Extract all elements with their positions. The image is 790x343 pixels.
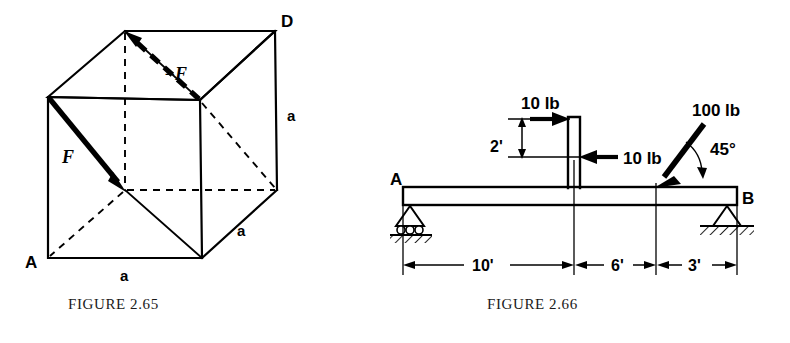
post-height-dimension: [508, 117, 580, 159]
support-b-pin: [700, 206, 754, 235]
figure-2-65-panel: A D F −F a a a: [0, 0, 400, 343]
cube-vertex-label-a: A: [25, 253, 37, 272]
load-arrow-100lb: [654, 124, 707, 188]
cube-edge-label-depth: a: [237, 222, 246, 239]
load-label-top-10lb: 10 lb: [521, 94, 560, 113]
load-label-mid-10lb: 10 lb: [623, 149, 662, 168]
figure-2-66-panel: 10 lb 10 lb 100 lb 45° 2' A B 10' 6' 3': [390, 0, 790, 343]
load-label-100lb: 100 lb: [692, 101, 740, 120]
dimension-extension-lines: [403, 160, 737, 275]
beam-diagram: 10 lb 10 lb 100 lb 45° 2' A B 10' 6' 3': [390, 0, 790, 290]
cube-edge-label-bottom: a: [120, 267, 129, 284]
dimension-row: [403, 261, 737, 269]
beam-body: [403, 187, 737, 205]
dimension-label-10ft: 10': [472, 257, 494, 274]
cube-vertex-label-d: D: [281, 12, 293, 31]
beam-support-label-b: B: [742, 189, 754, 208]
figure-page: A D F −F a a a: [0, 0, 790, 343]
load-arrow-mid-10lb: [579, 150, 618, 164]
beam-support-label-a: A: [390, 170, 402, 189]
dimension-label-3ft: 3': [688, 257, 701, 274]
cube-diagram: A D F −F a a a: [0, 0, 400, 290]
cube-force-label-f: F: [61, 147, 74, 167]
figure-caption-right: FIGURE 2.66: [487, 296, 578, 313]
dimension-label-6ft: 6': [611, 257, 624, 274]
post-height-label: 2': [490, 138, 503, 155]
force-vector-F: [49, 98, 126, 192]
cube-edge-label-height: a: [287, 107, 296, 124]
cube-force-label-minus-f: −F: [164, 64, 187, 84]
support-a-roller: [390, 206, 432, 243]
angle-label-45deg: 45°: [710, 140, 736, 159]
figure-caption-left: FIGURE 2.65: [68, 296, 159, 313]
